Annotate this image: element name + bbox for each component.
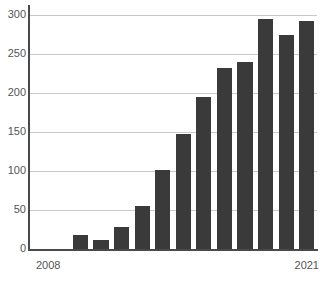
y-axis-tick-labels: 300 250 200 150 100 50 0 xyxy=(0,0,26,292)
bar-2020[interactable] xyxy=(279,35,294,249)
bar-2016[interactable] xyxy=(196,97,211,249)
bar-slot xyxy=(258,15,273,249)
bar-2015[interactable] xyxy=(176,134,191,249)
bar-chart: 300 250 200 150 100 50 0 2008 2021 xyxy=(0,0,325,292)
bar-slot xyxy=(135,15,150,249)
y-tick-label-250: 250 xyxy=(0,48,26,59)
bar-series xyxy=(29,15,317,249)
bar-slot xyxy=(73,15,88,249)
bar-2021[interactable] xyxy=(299,21,314,249)
bar-slot xyxy=(176,15,191,249)
y-tick-label-100: 100 xyxy=(0,165,26,176)
bar-2012[interactable] xyxy=(114,227,129,249)
bar-2017[interactable] xyxy=(217,68,232,249)
bar-2011[interactable] xyxy=(93,240,108,249)
bar-slot xyxy=(32,15,47,249)
x-axis-line xyxy=(29,249,318,251)
bar-slot xyxy=(196,15,211,249)
bar-slot xyxy=(114,15,129,249)
bar-slot xyxy=(279,15,294,249)
bar-2018[interactable] xyxy=(237,62,252,249)
x-tick-label-last: 2021 xyxy=(295,259,319,271)
bar-slot xyxy=(52,15,67,249)
bar-2014[interactable] xyxy=(155,170,170,249)
bar-slot xyxy=(93,15,108,249)
bar-slot xyxy=(217,15,232,249)
y-tick-label-200: 200 xyxy=(0,87,26,98)
y-tick-label-300: 300 xyxy=(0,9,26,20)
y-tick-label-150: 150 xyxy=(0,126,26,137)
bar-slot xyxy=(299,15,314,249)
x-tick-label-first: 2008 xyxy=(36,259,60,271)
bar-slot xyxy=(155,15,170,249)
y-tick-label-50: 50 xyxy=(0,204,26,215)
bar-2019[interactable] xyxy=(258,19,273,249)
bar-2010[interactable] xyxy=(73,235,88,249)
y-tick-label-0: 0 xyxy=(0,243,26,254)
bar-slot xyxy=(237,15,252,249)
bar-2013[interactable] xyxy=(135,206,150,249)
